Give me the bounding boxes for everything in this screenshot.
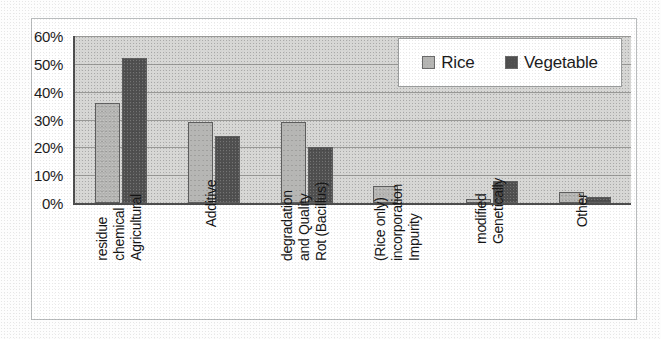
y-axis-tick-label: 0% bbox=[42, 195, 63, 212]
bar-vegetable bbox=[122, 58, 147, 203]
x-axis-label-line: Genetically bbox=[490, 178, 507, 244]
x-axis-category-label: Agriculturalchemicalresidue bbox=[73, 206, 166, 334]
x-axis-category-label-text: Geneticallymodified bbox=[473, 178, 507, 244]
x-axis-label-line: chemical bbox=[111, 208, 128, 261]
x-axis-label-line: Other bbox=[574, 193, 591, 227]
y-axis-tick-label: 20% bbox=[34, 139, 63, 156]
x-axis-label-line: Impurity bbox=[406, 214, 423, 261]
x-axis-label-line: degradation bbox=[279, 190, 296, 261]
legend-label: Rice bbox=[441, 53, 474, 73]
x-axis-category-label-text: Rot (Bacillus)and Qualitydegradation bbox=[279, 182, 330, 261]
bar-group bbox=[260, 36, 353, 203]
legend-label: Vegetable bbox=[524, 53, 598, 73]
legend-swatch-icon bbox=[422, 56, 435, 69]
chart-legend: RiceVegetable bbox=[398, 38, 622, 87]
x-axis-label-line: (Rice only) bbox=[372, 197, 389, 261]
x-axis-category-label-text: Other bbox=[574, 193, 591, 227]
x-axis-category-label: Other bbox=[536, 206, 629, 334]
x-axis-label-line: Agricultural bbox=[128, 195, 145, 261]
legend-swatch-icon bbox=[505, 56, 518, 69]
x-axis-category-label: Additive bbox=[166, 206, 259, 334]
y-axis-tick-label: 40% bbox=[34, 83, 63, 100]
x-axis-label-line: modified bbox=[473, 193, 490, 244]
y-axis: 60%50%40%30%20%10%0% bbox=[0, 36, 67, 203]
x-axis-label-line: Additive bbox=[203, 180, 220, 227]
x-axis-category-label: Rot (Bacillus)and Qualitydegradation bbox=[258, 206, 351, 334]
y-axis-tick-label: 10% bbox=[34, 167, 63, 184]
bar-group bbox=[168, 36, 261, 203]
x-axis-category-label-text: Impurityincorporation(Rice only) bbox=[372, 184, 423, 261]
bar-rice bbox=[95, 103, 120, 203]
y-axis-tick-label: 30% bbox=[34, 111, 63, 128]
x-axis-label-line: incorporation bbox=[389, 184, 406, 261]
legend-item-vegetable[interactable]: Vegetable bbox=[505, 53, 598, 73]
bar-chart: 60%50%40%30%20%10%0% RiceVegetable Agric… bbox=[0, 0, 661, 339]
x-axis-label-line: residue bbox=[94, 217, 111, 261]
x-axis-category-label-text: Additive bbox=[203, 180, 220, 227]
x-axis-label-line: and Quality bbox=[296, 193, 313, 261]
y-axis-tick-label: 60% bbox=[34, 28, 63, 45]
y-axis-tick-label: 50% bbox=[34, 55, 63, 72]
x-axis-category-label: Impurityincorporation(Rice only) bbox=[351, 206, 444, 334]
x-axis-category-label: Geneticallymodified bbox=[444, 206, 537, 334]
x-axis-label-line: Rot (Bacillus) bbox=[313, 182, 330, 261]
legend-item-rice[interactable]: Rice bbox=[422, 53, 474, 73]
bar-group bbox=[75, 36, 168, 203]
x-axis-category-label-text: Agriculturalchemicalresidue bbox=[94, 195, 145, 261]
x-axis-category-labels: AgriculturalchemicalresidueAdditiveRot (… bbox=[73, 206, 629, 336]
